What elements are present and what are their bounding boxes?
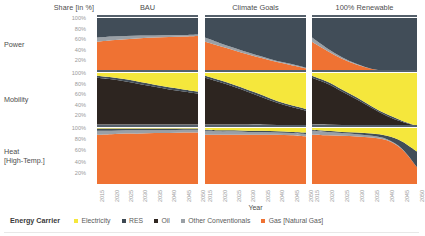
y-tick-label: 60% [62, 147, 86, 153]
area-series-electricity [97, 128, 198, 129]
x-tick-label: 2025 [236, 190, 242, 202]
legend-item-label: Gas [Natural Gas] [269, 217, 323, 224]
y-tick-label: 100% [62, 15, 86, 21]
panel-top-rule [205, 70, 306, 71]
area-chart-panel[interactable] [312, 73, 417, 126]
x-tick-label: 2045 [294, 190, 300, 202]
y-tick-label: 60% [62, 36, 86, 42]
panel-top-rule [312, 125, 417, 126]
panel-top-rule [312, 70, 417, 71]
legend-item[interactable]: Electricity [74, 217, 111, 224]
legend-item[interactable]: Other Conventionals [181, 217, 250, 224]
area-chart-panel[interactable] [97, 18, 198, 71]
x-tick-label: 2030 [359, 190, 365, 202]
x-tick-label: 2020 [222, 190, 228, 202]
y-tick-label: 20% [62, 57, 86, 63]
legend-items: ElectricityRESOilOther ConventionalsGas … [74, 217, 334, 224]
area-chart-panel[interactable] [312, 128, 417, 184]
x-tick-label: 2040 [389, 190, 395, 202]
legend-item-label: RES [129, 217, 143, 224]
legend-title: Energy Carrier [10, 216, 60, 225]
area-chart-panel[interactable] [205, 73, 306, 126]
x-tick-label: 2025 [128, 190, 134, 202]
x-tick-label: 2020 [114, 190, 120, 202]
panel-top-rule [205, 15, 306, 16]
y-tick-label: 40% [62, 159, 86, 165]
row-label-heat-line2: [High-Temp.] [4, 156, 45, 165]
legend-item[interactable]: Gas [Natural Gas] [261, 217, 323, 224]
legend-item-label: Other Conventionals [188, 217, 250, 224]
panel-top-rule [312, 15, 417, 16]
y-axis-title: Share [in %] [18, 3, 94, 12]
y-tick-label: 80% [62, 26, 86, 32]
legend-item[interactable]: Oil [154, 217, 170, 224]
panel-top-rule [97, 15, 198, 16]
y-tick-label: 40% [62, 47, 86, 53]
legend-item-label: Electricity [81, 217, 110, 224]
y-tick-label: 20% [62, 170, 86, 176]
area-chart-panel[interactable] [205, 18, 306, 71]
area-series-gas-natural-gas [205, 135, 306, 184]
x-tick-label: 2035 [265, 190, 271, 202]
row-label-power-line1: Power [4, 40, 24, 49]
x-tick-label: 2040 [279, 190, 285, 202]
x-tick-label: 2030 [142, 190, 148, 202]
x-tick-label: 2020 [329, 190, 335, 202]
x-tick-label: 2025 [344, 190, 350, 202]
row-label-mobility-line1: Mobility [4, 95, 28, 104]
legend-item-label: Oil [162, 217, 170, 224]
legend-swatch-icon [181, 219, 185, 223]
panel-top-rule [97, 125, 198, 126]
area-chart-panel[interactable] [97, 73, 198, 126]
x-axis-title: Year [205, 204, 306, 211]
legend-swatch-icon [122, 219, 126, 223]
area-chart-panel[interactable] [205, 128, 306, 184]
row-label-heat-line1: Heat [4, 147, 19, 156]
panel-top-rule [205, 125, 306, 126]
y-tick-label: 20% [62, 112, 86, 118]
panel-title-100-renewable: 100% Renewable [312, 3, 417, 12]
area-chart-panel[interactable] [312, 18, 417, 71]
legend-swatch-icon [154, 219, 158, 223]
row-label-power: Power [4, 40, 56, 49]
area-chart-panel[interactable] [97, 128, 198, 184]
x-tick-label: 2015 [314, 190, 320, 202]
x-tick-label: 2030 [250, 190, 256, 202]
row-label-mobility: Mobility [4, 95, 56, 104]
legend-item[interactable]: RES [122, 217, 143, 224]
x-tick-label: 2050 [200, 190, 206, 202]
x-tick-label: 2050 [419, 190, 425, 202]
panel-title-bau: BAU [97, 3, 198, 12]
x-tick-label: 2015 [99, 190, 105, 202]
legend-swatch-icon [261, 219, 265, 223]
y-tick-label: 80% [62, 81, 86, 87]
row-label-heat: Heat [High-Temp.] [4, 147, 56, 165]
panel-title-climate-goals: Climate Goals [205, 3, 306, 12]
y-tick-label: 60% [62, 91, 86, 97]
legend: Energy Carrier ElectricityRESOilOther Co… [10, 216, 334, 225]
panel-top-rule [97, 70, 198, 71]
x-tick-label: 2045 [404, 190, 410, 202]
area-series-gas-natural-gas [97, 132, 198, 184]
x-tick-label: 2045 [186, 190, 192, 202]
area-series-res [97, 18, 198, 38]
legend-divider [4, 232, 419, 233]
y-tick-label: 40% [62, 102, 86, 108]
y-tick-label: 80% [62, 136, 86, 142]
area-series-gas-natural-gas [97, 36, 198, 71]
x-tick-label: 2035 [157, 190, 163, 202]
legend-swatch-icon [74, 219, 78, 223]
x-tick-label: 2040 [171, 190, 177, 202]
y-tick-label: 100% [62, 70, 86, 76]
y-tick-label: 100% [62, 125, 86, 131]
x-tick-label: 2035 [374, 190, 380, 202]
x-tick-label: 2015 [207, 190, 213, 202]
